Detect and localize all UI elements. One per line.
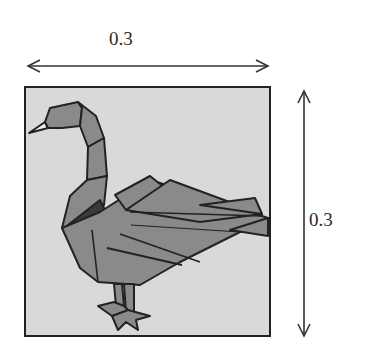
height-label: 0.3 — [309, 209, 333, 231]
width-dimension-arrow — [28, 60, 268, 72]
width-label: 0.3 — [109, 28, 133, 50]
swan-dimension-diagram — [0, 0, 374, 346]
